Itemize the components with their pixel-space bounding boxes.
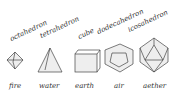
dodecahedron-shape bbox=[105, 44, 133, 72]
label-earth: earth bbox=[75, 82, 94, 90]
label-water: water bbox=[39, 82, 59, 90]
cube-shape bbox=[75, 50, 100, 72]
label-aether: aether bbox=[143, 82, 166, 90]
octahedron-shape bbox=[7, 52, 23, 69]
label-fire: fire bbox=[9, 82, 21, 90]
label-air: air bbox=[114, 82, 124, 90]
icosahedron-shape bbox=[140, 38, 168, 72]
tetrahedron-shape bbox=[38, 48, 62, 72]
